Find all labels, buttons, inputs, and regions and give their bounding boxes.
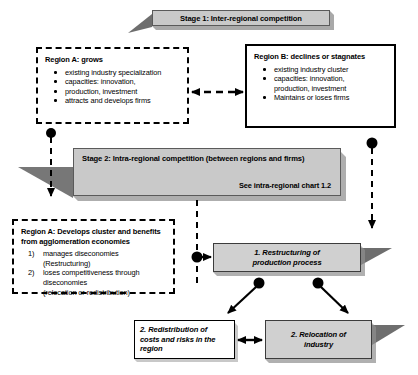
list-item: capacities: innovation, xyxy=(45,77,180,87)
relocation-box: 2. Relocation of industry xyxy=(265,320,372,359)
relocation-line-1: 2. Relocation of xyxy=(291,330,346,340)
bullet-icon xyxy=(54,71,57,74)
list-item-continuation: production, investment xyxy=(254,84,387,94)
bullet-icon xyxy=(54,99,57,102)
restructuring-line-1: 1. Restructuring of xyxy=(252,248,321,258)
item-marker: 1) xyxy=(28,249,34,259)
bullet-icon xyxy=(263,68,266,71)
region-a-cluster-items: 1)manages diseconomies (Restructuring) 2… xyxy=(21,249,167,278)
stage2-banner-tail xyxy=(18,167,73,198)
list-item: attracts and develops firms xyxy=(45,96,180,106)
bullet-text: production, investment xyxy=(274,84,346,93)
region-a-title: Region A: grows xyxy=(45,55,180,65)
region-b-title: Region B: declines or stagnates xyxy=(254,52,387,62)
bullet-icon xyxy=(263,77,266,80)
bullet-icon xyxy=(54,80,57,83)
list-item: production, investment xyxy=(45,87,180,97)
restructuring-tail xyxy=(361,248,392,265)
stage2-note: See intra-regional chart 1.2 xyxy=(239,181,331,190)
list-item: capacities: innovation, xyxy=(254,74,387,84)
restructuring-to-relocation-arrow xyxy=(321,287,348,313)
relocation-tail xyxy=(372,325,405,345)
redistribution-box: 2. Redistribution of costs and risks in … xyxy=(134,320,235,359)
bullet-text: existing industry cluster xyxy=(274,65,348,74)
bullet-text: existing industry specialization xyxy=(65,68,161,77)
relocation-line-2: industry xyxy=(291,340,346,350)
connector-dot-region-a xyxy=(46,128,56,138)
restructuring-label: 1. Restructuring of production process xyxy=(252,248,321,267)
item-marker: 2) xyxy=(28,268,34,278)
region-b-box: Region B: declines or stagnates existing… xyxy=(245,44,396,128)
list-item: Maintains or loses firms xyxy=(254,93,387,103)
title-line-2: from agglomeration economies xyxy=(21,237,167,247)
redistribution-label: 2. Redistribution of costs and risks in … xyxy=(140,325,215,354)
redistribution-line-1: 2. Redistribution of xyxy=(140,325,215,335)
bullet-text: capacities: innovation, xyxy=(274,74,344,83)
stage1-banner: Stage 1: Inter-regional competition xyxy=(152,10,330,26)
bullet-text: capacities: innovation, xyxy=(65,77,135,86)
region-a-box: Region A: grows existing industry specia… xyxy=(36,47,189,124)
bullet-text: attracts and develops firms xyxy=(65,96,151,105)
region-a-cluster-box: Region A: Develops cluster and benefits … xyxy=(12,219,175,294)
redistribution-line-2: costs and risks in the xyxy=(140,335,215,345)
continuation-line-2: (relocation or redistribution) xyxy=(21,288,167,298)
redistribution-line-3: region xyxy=(140,344,215,354)
stage2-banner: Stage 2: Intra-regional competition (bet… xyxy=(73,148,341,196)
region-b-bullets: existing industry cluster capacities: in… xyxy=(254,65,387,103)
connector-dot-region-b xyxy=(367,138,378,149)
stage2-label: Stage 2: Intra-regional competition (bet… xyxy=(82,154,332,163)
list-item: 1)manages diseconomies (Restructuring) xyxy=(21,249,167,268)
bullet-text: Maintains or loses firms xyxy=(274,93,349,102)
stage1-banner-tail xyxy=(128,14,152,33)
bullet-icon xyxy=(263,96,266,99)
restructuring-to-redistribution-arrow xyxy=(228,287,256,313)
restructuring-line-2: production process xyxy=(252,258,321,268)
bullet-text: production, investment xyxy=(65,87,137,96)
bullet-icon xyxy=(54,90,57,93)
restructuring-box: 1. Restructuring of production process xyxy=(213,243,361,272)
item-text: manages diseconomies (Restructuring) xyxy=(43,249,119,268)
region-a-cluster-title: Region A: Develops cluster and benefits … xyxy=(21,227,167,246)
item-text: loses competitiveness through xyxy=(43,268,140,277)
list-item: 2)loses competitiveness through xyxy=(21,268,167,278)
region-a-bullets: existing industry specialization capacit… xyxy=(45,68,180,106)
continuation-line-1: diseconomies xyxy=(21,278,167,288)
diagram-canvas: Stage 1: Inter-regional competition Regi… xyxy=(0,0,418,375)
title-line-1: Region A: Develops cluster and benefits xyxy=(21,227,167,237)
list-item: existing industry specialization xyxy=(45,68,180,78)
stage1-label: Stage 1: Inter-regional competition xyxy=(180,14,302,23)
list-item: existing industry cluster xyxy=(254,65,387,75)
relocation-label: 2. Relocation of industry xyxy=(291,330,346,349)
